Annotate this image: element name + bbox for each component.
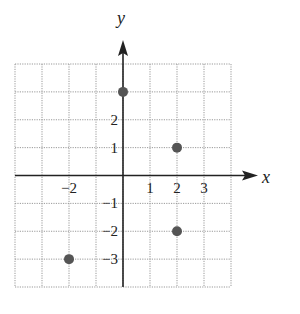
x-tick-label: 3 — [200, 180, 208, 196]
coordinate-plane: −212321−1−2−3 x y — [0, 0, 300, 314]
data-point — [172, 143, 182, 153]
y-tick-label: −1 — [102, 195, 118, 211]
x-tick-label: 1 — [146, 180, 154, 196]
data-point — [64, 254, 74, 264]
axes — [15, 40, 258, 287]
data-point — [172, 226, 182, 236]
y-tick-label: −3 — [102, 251, 118, 267]
x-tick-label: −2 — [61, 180, 77, 196]
y-tick-label: 2 — [111, 112, 119, 128]
data-point — [118, 87, 128, 97]
tick-labels: −212321−1−2−3 — [61, 112, 208, 267]
x-axis-label: x — [261, 167, 270, 187]
x-tick-label: 2 — [173, 180, 181, 196]
y-tick-label: 1 — [111, 140, 119, 156]
y-axis-label: y — [115, 8, 125, 28]
y-tick-label: −2 — [102, 223, 118, 239]
